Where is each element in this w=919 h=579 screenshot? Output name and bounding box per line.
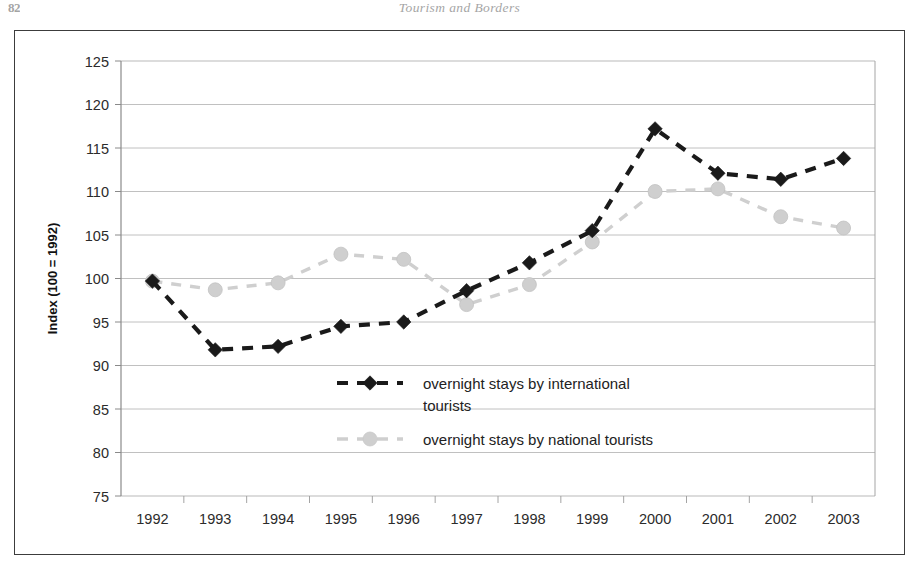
data-point-marker [271, 276, 285, 290]
data-point-marker [271, 339, 285, 353]
y-tick-label: 125 [85, 54, 109, 70]
y-axis-title-label: Index (100 = 1992) [45, 223, 60, 335]
data-point-marker [836, 151, 850, 165]
data-point-marker [397, 315, 411, 329]
line-chart: 1251201151101051009590858075 19921993199… [15, 31, 906, 556]
x-axis-tick-marks [184, 496, 812, 503]
data-point-marker [711, 182, 725, 196]
data-point-marker [460, 298, 474, 312]
legend-marker-sample [363, 432, 377, 446]
y-tick-label: 85 [93, 402, 109, 418]
data-point-marker [334, 247, 348, 261]
data-point-marker [208, 283, 222, 297]
page-running-header: 82 Tourism and Borders [0, 0, 919, 22]
x-tick-label: 1997 [450, 511, 482, 527]
legend-label: tourists [423, 397, 471, 414]
y-tick-label: 95 [93, 315, 109, 331]
data-point-marker [397, 252, 411, 266]
chart-legend: overnight stays by internationaltourists… [337, 375, 653, 448]
x-tick-label: 2001 [702, 511, 734, 527]
legend-label: overnight stays by national tourists [423, 431, 653, 448]
legend-marker-sample [363, 376, 377, 390]
x-tick-label: 1996 [388, 511, 420, 527]
x-tick-label: 1998 [513, 511, 545, 527]
y-tick-label: 110 [86, 184, 109, 200]
y-tick-label: 115 [86, 141, 109, 157]
x-tick-label: 1995 [325, 511, 357, 527]
x-tick-label: 1994 [262, 511, 294, 527]
data-point-marker [837, 221, 851, 235]
series-line [152, 189, 843, 305]
y-tick-label: 90 [93, 358, 109, 374]
y-tick-label: 100 [85, 271, 109, 287]
figure-frame: 1251201151101051009590858075 19921993199… [14, 30, 905, 555]
data-point-marker [522, 278, 536, 292]
x-tick-label: 2003 [827, 511, 859, 527]
x-tick-label: 2000 [639, 511, 671, 527]
data-point-marker [459, 283, 473, 297]
y-tick-label: 105 [85, 228, 109, 244]
y-axis-title: Index (100 = 1992) [45, 223, 60, 335]
data-point-marker [774, 210, 788, 224]
y-axis-tick-labels: 1251201151101051009590858075 [85, 54, 121, 505]
x-tick-label: 1992 [136, 511, 168, 527]
chart-canvas: 1251201151101051009590858075 19921993199… [15, 31, 906, 556]
data-point-marker [522, 256, 536, 270]
x-tick-label: 1993 [199, 511, 231, 527]
legend-label: overnight stays by international [423, 375, 630, 392]
x-tick-label: 2002 [765, 511, 797, 527]
data-point-marker [648, 185, 662, 199]
y-tick-label: 75 [93, 489, 109, 505]
series-line [152, 129, 843, 350]
running-head-title: Tourism and Borders [0, 0, 919, 16]
data-point-marker [774, 172, 788, 186]
x-axis-tick-labels: 1992199319941995199619971998199920002001… [136, 511, 859, 527]
data-point-marker [334, 319, 348, 333]
y-tick-label: 120 [85, 97, 109, 113]
x-tick-label: 1999 [576, 511, 608, 527]
y-tick-label: 80 [93, 445, 109, 461]
